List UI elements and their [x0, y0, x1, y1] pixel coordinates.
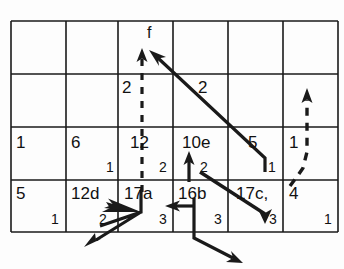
cell-sub-r3c5: 1	[268, 159, 276, 175]
cell-label-r4c6: 4	[289, 184, 298, 204]
cell-label-r4c4: 16b	[178, 184, 206, 204]
cell-sub-r3c4: 2	[200, 159, 208, 175]
cell-sub-r4c6: 1	[324, 211, 332, 227]
cell-sub-r4c1: 1	[51, 211, 59, 227]
dashed-up-arrow-center	[137, 48, 148, 192]
cell-sub-r3c2: 1	[106, 159, 114, 175]
edge-label-dashed-vertical: 2	[122, 78, 131, 98]
function-label-f: f	[147, 24, 151, 42]
cell-sub-r4c3: 3	[159, 211, 167, 227]
diagonal-incoming-arrow	[149, 50, 265, 172]
cell-label-r3c2: 6	[71, 133, 80, 153]
up-arrow-16b	[184, 151, 195, 182]
cell-sub-r4c2: 2	[99, 211, 107, 227]
cell-sub-r4c5: 3	[269, 211, 277, 227]
cell-label-r4c2: 12d	[71, 184, 99, 204]
cell-label-r3c6: 1	[289, 133, 298, 153]
cell-sub-r4c4: 3	[214, 211, 222, 227]
edge-label-diagonal: 2	[198, 78, 207, 98]
cell-sub-r3c3: 2	[159, 159, 167, 175]
cell-label-r4c1: 5	[16, 184, 25, 204]
cell-label-r3c3: 12	[130, 133, 149, 153]
diagram-canvas: f 1 6 12 10e 5 1 1 2 2 1 5 12d 17a 16b 1…	[0, 0, 344, 269]
cell-label-r4c3: 17a	[124, 184, 152, 204]
cell-label-r3c1: 1	[16, 133, 25, 153]
cell-label-r4c5: 17c,	[236, 184, 268, 204]
cell-label-r3c4: 10e	[182, 133, 210, 153]
cell-label-r3c5: 5	[248, 133, 257, 153]
